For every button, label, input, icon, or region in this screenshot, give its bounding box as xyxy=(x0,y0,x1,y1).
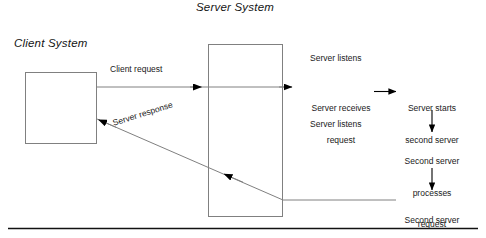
server-response-arrowhead-mid xyxy=(224,174,243,182)
client-request-label: Client request xyxy=(110,64,162,75)
server-system-box xyxy=(209,45,283,217)
second-server-responds-line1: Second server xyxy=(398,215,466,226)
client-system-box xyxy=(26,73,97,144)
server-response-line xyxy=(97,119,283,200)
second-server-processes-line1: Second server xyxy=(398,156,466,167)
server-listens-first-label: Server listens xyxy=(310,53,362,64)
server-starts-line1: Server starts xyxy=(398,103,466,114)
client-server-diagram: Client System Server System Client reque… xyxy=(0,0,486,238)
client-system-title: Client System xyxy=(14,38,88,49)
server-receives-request-line1: Server receives xyxy=(307,103,375,114)
second-server-responds-label: Second server responds xyxy=(398,194,466,238)
server-receives-request-line2: request xyxy=(307,135,375,146)
server-listens-second-label: Server listens xyxy=(310,119,362,130)
server-system-title: Server System xyxy=(196,2,274,13)
